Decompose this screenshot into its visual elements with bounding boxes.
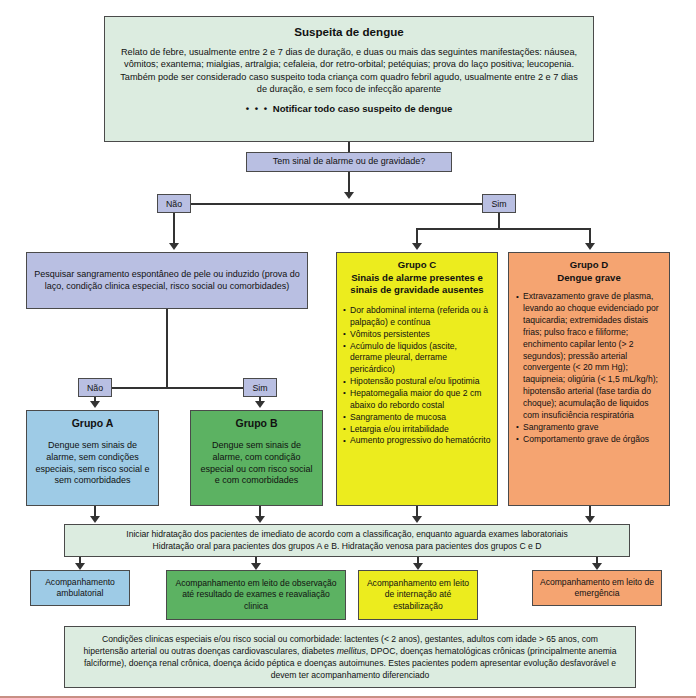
node-grupo-c: Grupo C Sinais de alarme presentes e sin…: [336, 252, 498, 506]
arrowhead-outcome-b: [251, 563, 261, 570]
arrowhead-yes-to-grupoC: [412, 243, 422, 250]
grupo-d-subtitle: Dengue grave: [557, 272, 620, 285]
decision-question: Tem sinal de alarme ou de gravidade?: [273, 156, 426, 168]
label-pesquisar-yes-text: Sim: [252, 383, 267, 393]
connector-pesquisar-split-bar: [111, 387, 244, 389]
grupo-d-header: Grupo D Dengue grave: [557, 259, 620, 284]
list-item: Sangramento de mucosa: [343, 412, 491, 424]
arrowhead-grupoC-to-hidratacao: [412, 516, 422, 523]
arrowhead-no-to-pesquisar: [169, 243, 179, 250]
connector-yes-down: [498, 213, 500, 229]
arrowhead-grupoB-to-hidratacao: [255, 516, 265, 523]
list-item: Extravazamento grave de plasma, levando …: [516, 291, 662, 421]
footnote-text: Condições clinicas especiais e/ou risco …: [79, 633, 621, 682]
arrowhead-outcome-a: [75, 563, 85, 570]
node-outcome-observacao: Acompanhamento em leito de observação at…: [166, 570, 346, 620]
node-footnote-condicoes-especiais: Condições clinicas especiais e/ou risco …: [64, 626, 636, 688]
suspeita-notify-text: Notificar todo caso suspeito de dengue: [273, 103, 453, 114]
node-outcome-internacao: Acompanhamento em leito de internação at…: [358, 570, 478, 620]
grupo-a-title: Grupo A: [72, 417, 114, 431]
node-grupo-d: Grupo D Dengue grave Extravazamento grav…: [508, 252, 670, 506]
connector-decision-down: [348, 172, 350, 194]
list-item: Dor abdominal interna (referida ou à pal…: [343, 305, 491, 329]
dengue-classification-flowchart: Suspeita de dengue Relato de febre, usua…: [0, 0, 696, 698]
grupo-c-title: Grupo C: [343, 259, 491, 272]
list-item: Comportamento grave de órgãos: [516, 434, 662, 446]
hidratacao-line2: Hidratação oral para pacientes dos grupo…: [153, 541, 542, 552]
hidratacao-line1: Iniciar hidratação dos pacientes de imed…: [126, 529, 567, 540]
footnote-italic: mellitus: [337, 646, 366, 656]
grupo-b-title: Grupo B: [236, 417, 278, 431]
label-pesquisar-no: Não: [78, 378, 112, 397]
label-pesquisar-no-text: Não: [87, 383, 103, 393]
arrowhead-outcome-c: [413, 563, 423, 570]
suspeita-title: Suspeita de dengue: [294, 24, 404, 39]
node-decision-sinal-alarme: Tem sinal de alarme ou de gravidade?: [246, 152, 452, 172]
node-grupo-b: Grupo B Dengue sem sinais de alarme, com…: [190, 410, 323, 506]
list-item: Hipotensão postural e/ou lipotimia: [343, 376, 491, 388]
suspeita-body: Relato de febre, usualmente entre 2 e 7 …: [117, 46, 581, 95]
connector-split-bar-top: [190, 203, 483, 205]
grupo-a-text: Dengue sem sinais de alarme, sem condiçõ…: [34, 440, 151, 488]
node-grupo-a: Grupo A Dengue sem sinais de alarme, sem…: [26, 410, 159, 506]
list-item: Letargia e/ou irritabilidade: [343, 424, 491, 436]
suspeita-notify: • • • Notificar todo caso suspeito de de…: [246, 103, 453, 116]
connector-suspeita-to-decision: [348, 142, 350, 152]
pesquisar-text: Pesquisar sangramento espontâneo de pele…: [34, 269, 300, 293]
label-pesquisar-yes: Sim: [243, 378, 277, 397]
grupo-d-bullet-list: Extravazamento grave de plasma, levando …: [516, 291, 662, 445]
label-decision-no-text: Não: [166, 199, 182, 209]
list-item: Sangramento grave: [516, 422, 662, 434]
connector-yes-split-bar: [416, 228, 590, 230]
node-suspeita-de-dengue: Suspeita de dengue Relato de febre, usua…: [104, 16, 594, 142]
outcome-text: Acompanhamento em leito de emergência: [537, 577, 657, 600]
grupo-d-title: Grupo D: [557, 259, 620, 272]
arrowhead-no-to-grupoA: [90, 401, 100, 408]
bullet-dots-icon: • • •: [246, 103, 273, 114]
connector-pesquisar-down: [166, 309, 168, 387]
label-decision-yes: Sim: [482, 194, 516, 213]
label-decision-no: Não: [157, 194, 191, 213]
arrowhead-yes-to-grupoD: [585, 243, 595, 250]
arrowhead-yes-to-grupoB: [255, 401, 265, 408]
outcome-text: Acompanhamento ambulatorial: [35, 577, 125, 600]
label-decision-yes-text: Sim: [491, 199, 506, 209]
node-outcome-ambulatorial: Acompanhamento ambulatorial: [30, 570, 130, 606]
list-item: Hepatomegalia maior do que 2 cm abaixo d…: [343, 388, 491, 412]
grupo-c-bullet-list: Dor abdominal interna (referida ou à pal…: [343, 305, 491, 447]
connector-no-to-pesquisar: [173, 213, 175, 245]
arrowhead-outcome-d: [592, 563, 602, 570]
node-outcome-emergencia: Acompanhamento em leito de emergência: [532, 570, 662, 606]
list-item: Acúmulo de liquidos (ascite, derrame ple…: [343, 341, 491, 377]
grupo-b-text: Dengue sem sinais de alarme, com condiçã…: [198, 440, 315, 488]
node-hidratacao: Iniciar hidratação dos pacientes de imed…: [64, 524, 630, 557]
arrowhead-grupoA-to-hidratacao: [90, 516, 100, 523]
arrowhead-grupoD-to-hidratacao: [585, 516, 595, 523]
grupo-c-subtitle: Sinais de alarme presentes e sinais de g…: [343, 272, 491, 297]
list-item: Aumento progressivo do hematócrito: [343, 435, 491, 447]
arrowhead-decision-down: [344, 192, 354, 199]
outcome-text: Acompanhamento em leito de internação at…: [363, 578, 473, 612]
grupo-c-header: Grupo C Sinais de alarme presentes e sin…: [343, 259, 491, 297]
node-pesquisar-sangramento: Pesquisar sangramento espontâneo de pele…: [26, 252, 308, 309]
list-item: Vômitos persistentes: [343, 329, 491, 341]
outcome-text: Acompanhamento em leito de observação at…: [171, 578, 341, 612]
